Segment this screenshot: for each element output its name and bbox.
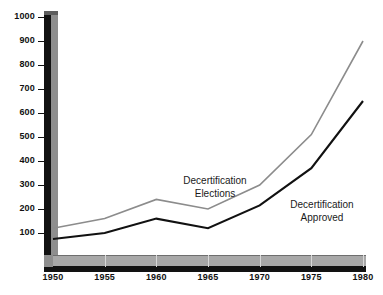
approved-annotation: Decertification Approved <box>290 199 353 224</box>
series-plot-area <box>0 0 383 295</box>
approved-annotation-line2: Approved <box>290 212 353 225</box>
decertification-line-chart: 1002003004005006007008009001000 19501955… <box>0 0 383 295</box>
approved-annotation-line1: Decertification <box>290 199 353 212</box>
elections-annotation: Decertification Elections <box>183 175 246 200</box>
elections-annotation-line2: Elections <box>183 188 246 201</box>
elections-annotation-line1: Decertification <box>183 175 246 188</box>
